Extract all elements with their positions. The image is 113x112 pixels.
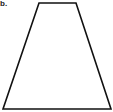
trapezoid-shape [3,3,111,109]
trapezoid-diagram [0,0,113,112]
